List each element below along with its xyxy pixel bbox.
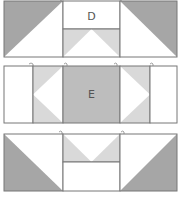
middle-center-block-e: E: [63, 66, 120, 123]
top-right-half-square-triangle: [120, 1, 177, 57]
bottom-center-flying-geese: [63, 134, 120, 162]
top-center-flying-geese: [63, 29, 120, 57]
top-left-half-square-triangle: [4, 1, 63, 57]
block-label-d: D: [87, 10, 95, 23]
middle-right-flying-geese: [120, 66, 150, 123]
quilt-block-diagram: D E: [0, 0, 180, 199]
middle-left-flying-geese: [33, 66, 63, 123]
bottom-right-half-square-triangle: [120, 134, 177, 191]
top-row: D: [4, 1, 177, 57]
top-center-block-d: D: [63, 1, 120, 29]
middle-right-plain-square: [150, 66, 177, 123]
block-label-e: E: [88, 88, 95, 101]
bottom-row: [4, 134, 177, 191]
bottom-center-plain-block: [63, 162, 120, 191]
bottom-left-half-square-triangle: [4, 134, 63, 191]
middle-left-plain-square: [4, 66, 33, 123]
